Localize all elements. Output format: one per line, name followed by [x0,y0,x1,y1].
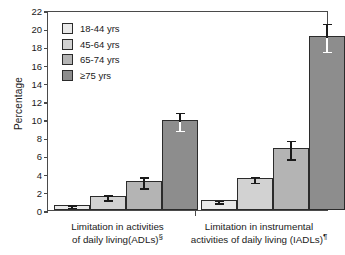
legend-item[interactable]: 18-44 yrs [62,21,154,36]
bar [309,36,345,210]
error-bar-cap-lower [323,52,332,53]
error-bar-cap-lower [176,131,185,132]
footnote-marker: § [159,231,163,240]
error-bar-cap-upper [323,24,332,25]
y-tick-label: 16 [31,61,42,72]
bar [162,120,198,210]
y-tick-mark [44,84,48,85]
error-bar-cap-upper [176,113,185,114]
x-axis-group-separator [195,210,196,216]
y-tick-label: 14 [31,79,42,90]
y-tick-label: 8 [37,133,42,144]
legend-item[interactable]: ≥75 yrs [62,68,154,83]
y-tick-label: 10 [31,115,42,126]
legend-label: ≥75 yrs [80,70,111,81]
legend-swatch [62,70,73,81]
y-tick-mark [44,30,48,31]
error-bar-cap-lower [140,188,149,189]
y-tick-mark [44,157,48,158]
y-tick-label: 20 [31,24,42,35]
y-tick-label: 6 [37,151,42,162]
y-tick-mark [44,175,48,176]
y-tick-mark [44,102,48,103]
y-tick-label: 0 [37,206,42,217]
legend-item[interactable]: 45-64 yrs [62,37,154,52]
footnote-marker: ¶ [323,231,327,240]
error-bar-cap-upper [68,205,77,206]
y-tick-label: 18 [31,42,42,53]
x-axis-label-adls: Limitation in activitiesof daily living(… [47,221,188,246]
y-tick-label: 12 [31,97,42,108]
legend-item[interactable]: 65-74 yrs [62,52,154,67]
error-bar-cap-upper [251,177,260,178]
x-axis-label-line1: Limitation in instrumental [185,221,333,234]
y-tick-mark [44,211,48,212]
legend: 18-44 yrs45-64 yrs65-74 yrs≥75 yrs [62,21,154,83]
y-tick-label: 2 [37,188,42,199]
error-bar-cap-upper [287,141,296,142]
error-bar-stem [290,141,291,159]
error-bar-cap-lower [215,203,224,204]
y-tick-label: 22 [31,6,42,17]
error-bar-cap-lower [287,159,296,160]
y-tick-mark [44,11,48,12]
y-axis-title: Percentage [13,49,24,159]
legend-swatch [62,23,73,34]
legend-label: 65-74 yrs [80,54,120,65]
y-tick-mark [44,120,48,121]
error-bar-stem-inner [326,38,327,52]
legend-label: 18-44 yrs [80,23,120,34]
x-axis-label-line2: activities of daily living (IADLs)¶ [185,234,333,247]
x-axis-label-iadls: Limitation in instrumentalactivities of … [185,221,333,246]
x-axis-label-line1: Limitation in activities [47,221,188,234]
y-tick-mark [44,66,48,67]
legend-swatch [62,54,73,65]
error-bar-cap-lower [251,183,260,184]
error-bar-stem-inner [179,122,180,131]
x-axis-label-line2: of daily living(ADLs)§ [47,234,188,247]
error-bar-stem [143,177,144,188]
error-bar-cap-upper [215,201,224,202]
error-bar-cap-upper [104,195,113,196]
legend-label: 45-64 yrs [80,39,120,50]
error-bar-cap-upper [140,177,149,178]
y-tick-label: 4 [37,170,42,181]
y-tick-mark [44,193,48,194]
error-bar-cap-lower [68,208,77,209]
y-tick-mark [44,48,48,49]
legend-swatch [62,39,73,50]
y-tick-mark [44,139,48,140]
error-bar-cap-lower [104,200,113,201]
